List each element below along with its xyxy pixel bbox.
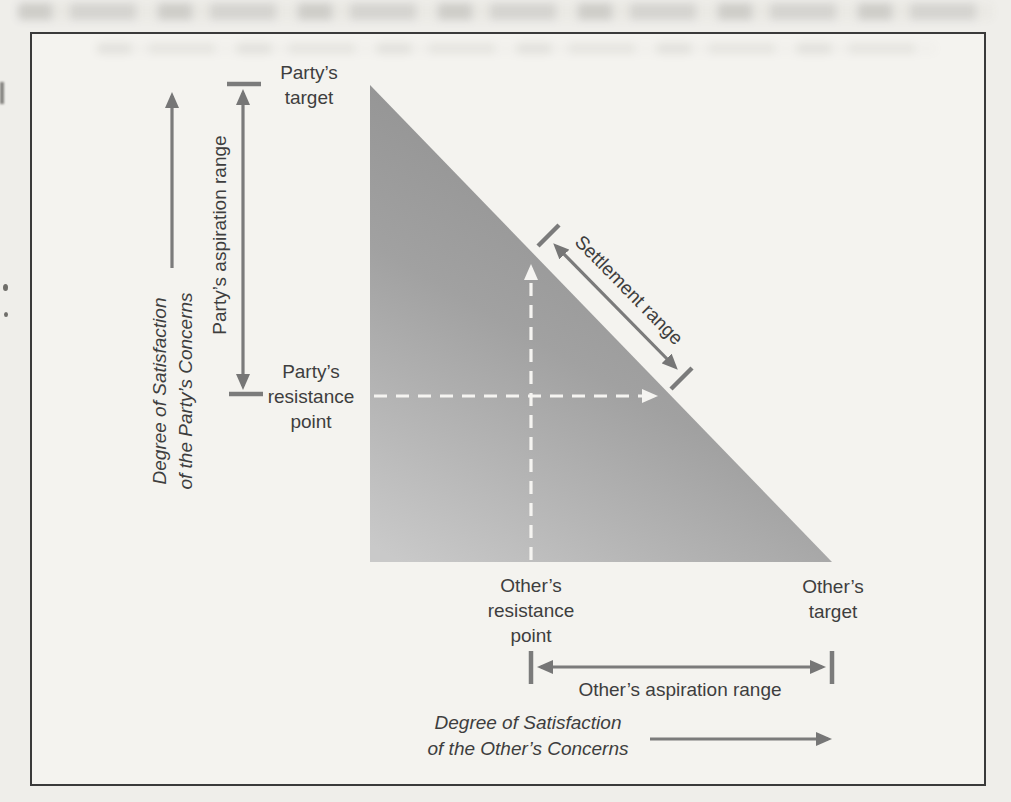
party-aspiration-range-label: Party’s aspiration range bbox=[207, 135, 232, 334]
others-resistance-point-label: Other’s resistance point bbox=[488, 573, 575, 648]
party-target-label: Party’s target bbox=[280, 60, 338, 110]
settlement-range-lower-tick bbox=[671, 368, 692, 389]
y-axis-label: Degree of Satisfaction of the Party’s Co… bbox=[147, 292, 199, 489]
x-axis-label: Degree of Satisfaction of the Other’s Co… bbox=[427, 710, 628, 762]
bargaining-zone-triangle bbox=[370, 85, 832, 562]
party-resistance-point-label: Party’s resistance point bbox=[268, 359, 355, 434]
scanned-textbook-page: Degree of Satisfaction of the Party’s Co… bbox=[0, 0, 1011, 802]
others-target-label: Other’s target bbox=[802, 574, 864, 624]
settlement-range-upper-tick bbox=[538, 225, 559, 246]
others-aspiration-range-label: Other’s aspiration range bbox=[578, 677, 781, 702]
